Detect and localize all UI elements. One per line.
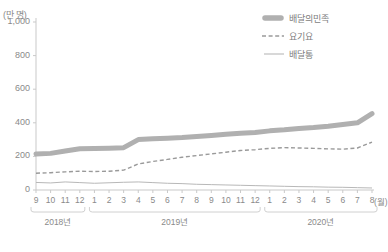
y-tick-label: 0 [2, 184, 30, 194]
series-line [36, 114, 372, 154]
x-tick-label: 7 [350, 195, 364, 205]
x-tick-label: 1 [263, 195, 277, 205]
legend-label: 요기요 [289, 30, 313, 43]
y-tick-label: 800 [2, 50, 30, 60]
x-tick-label: 3 [292, 195, 306, 205]
x-tick-label: 3 [117, 195, 131, 205]
series-line [36, 182, 372, 188]
x-tick-label: 6 [336, 195, 350, 205]
x-tick-label: 6 [160, 195, 174, 205]
legend-label: 배달의민족 [289, 12, 329, 25]
x-tick-label: 8 [190, 195, 204, 205]
x-tick-label: 4 [307, 195, 321, 205]
period-label: 2020년 [301, 215, 341, 227]
x-tick-label: 12 [248, 195, 262, 205]
x-tick-label: 1 [87, 195, 101, 205]
legend-label: 배달통 [289, 48, 313, 61]
x-tick-label: 10 [219, 195, 233, 205]
y-tick-label: 600 [2, 83, 30, 93]
x-tick-label: 10 [44, 195, 58, 205]
x-tick-label: 9 [29, 195, 43, 205]
x-tick-label: 2 [277, 195, 291, 205]
x-tick-label: 5 [321, 195, 335, 205]
x-tick-label: 11 [58, 195, 72, 205]
y-tick-label: 1,000 [2, 16, 30, 26]
x-tick-label: 4 [131, 195, 145, 205]
x-tick-label: 2 [102, 195, 116, 205]
x-axis-unit-label: (월) [374, 195, 388, 207]
x-tick-label: 7 [175, 195, 189, 205]
period-bracket [89, 207, 260, 212]
x-tick-label: 12 [73, 195, 87, 205]
period-label: 2019년 [155, 215, 195, 227]
x-tick-label: 11 [234, 195, 248, 205]
y-tick-label: 200 [2, 150, 30, 160]
period-bracket [265, 207, 377, 212]
x-tick-label: 9 [204, 195, 218, 205]
period-bracket [31, 207, 85, 212]
x-tick-label: 5 [146, 195, 160, 205]
period-label: 2018년 [38, 215, 78, 227]
line-chart: (만 명) 02004006008001,0009101112123456789… [0, 0, 388, 252]
y-tick-label: 400 [2, 117, 30, 127]
